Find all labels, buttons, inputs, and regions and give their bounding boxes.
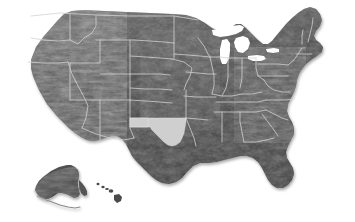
hawaii-island-maui xyxy=(109,189,114,192)
oklahoma-panhandle[interactable] xyxy=(130,118,148,127)
hawaii-island-kauai xyxy=(97,183,100,185)
hawaii-island-oahu xyxy=(101,186,104,189)
us-relief-map[interactable]: Oklahoma xyxy=(0,0,355,222)
hawaii-island-molokai xyxy=(105,188,109,190)
map-canvas[interactable]: Oklahoma xyxy=(0,0,355,222)
